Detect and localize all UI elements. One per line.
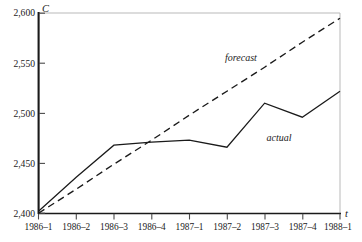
series-line-forecast — [39, 18, 341, 213]
x-tick-label: 1986–3 — [100, 222, 128, 232]
y-tick-label: 2,400 — [13, 208, 35, 219]
plot-frame — [38, 13, 340, 213]
series-annotation-actual: actual — [267, 132, 292, 143]
x-tick-label: 1986–1 — [25, 222, 53, 232]
series-annotation-forecast: forecast — [225, 52, 257, 63]
y-tick-marks — [39, 13, 45, 213]
y-tick-label: 2,550 — [13, 58, 35, 69]
x-tick-marks — [39, 214, 341, 220]
series-line-actual — [39, 91, 341, 211]
line-chart: 2,600 2,550 2,500 2,450 2,400 C 1986–1 1… — [0, 0, 362, 242]
y-tick-label: 2,500 — [13, 108, 35, 119]
x-tick-label: 1987–4 — [289, 222, 317, 232]
x-tick-label: 1987–1 — [176, 222, 204, 232]
y-tick-label: 2,450 — [13, 158, 35, 169]
y-tick-label: 2,600 — [13, 7, 35, 18]
x-tick-label: 1986–2 — [62, 222, 90, 232]
x-tick-label: 1986–4 — [138, 222, 166, 232]
x-tick-label: 1987–2 — [213, 222, 241, 232]
chart-container: 2,600 2,550 2,500 2,450 2,400 C 1986–1 1… — [0, 0, 362, 242]
x-tick-label: 1987–3 — [251, 222, 279, 232]
x-axis-title: t — [345, 208, 349, 219]
y-axis-title: C — [42, 3, 50, 14]
x-tick-label: 1988–1 — [324, 222, 352, 232]
